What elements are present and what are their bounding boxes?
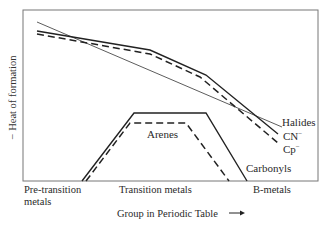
- chart-figure: Halides CN− Cp− Arenes Carbonyls Pre-tra…: [0, 0, 326, 228]
- arrow-head-icon: [240, 211, 245, 216]
- x-label-b-metals: B-metals: [253, 184, 291, 195]
- x-label-transition-metals: Transition metals: [119, 184, 192, 195]
- y-axis-title: − Heat of formation: [7, 28, 18, 168]
- series-cp-line: [37, 34, 278, 143]
- label-cp: Cp−: [283, 143, 300, 155]
- x-label-pre-transition: Pre-transition: [24, 184, 82, 195]
- label-cn: CN−: [283, 130, 302, 142]
- x-label-pre-transition-metals: metals: [24, 196, 51, 207]
- label-arenes: Arenes: [147, 128, 178, 140]
- series-cn-line: [37, 31, 278, 134]
- chart-svg: Halides CN− Cp− Arenes Carbonyls Pre-tra…: [0, 0, 326, 228]
- x-axis-title: Group in Periodic Table: [117, 208, 218, 219]
- label-halides: Halides: [282, 116, 316, 128]
- label-carbonyls: Carbonyls: [246, 162, 291, 174]
